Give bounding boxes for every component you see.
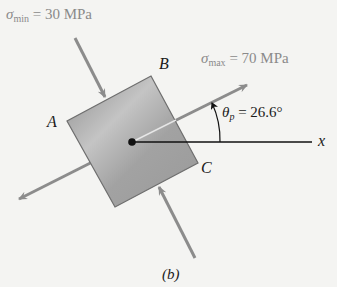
theta-p-label: θp = 26.6° [222, 104, 283, 122]
center-point [128, 138, 136, 146]
sigma-min-subscript: min [13, 13, 29, 24]
sigma-max-subscript: max [208, 57, 225, 68]
stress-element-diagram [0, 0, 337, 287]
theta-p-value: 26.6° [250, 104, 282, 120]
sigma-min-value: 30 MPa [45, 6, 92, 22]
x-axis-label: x [318, 132, 325, 150]
equals-sign: = [29, 6, 45, 22]
corner-label-c: C [201, 159, 212, 177]
figure-caption: (b) [162, 266, 180, 283]
theta-arc [212, 103, 220, 142]
equals-sign: = [226, 50, 242, 66]
corner-label-a: A [47, 113, 57, 131]
sigma-min-label: σmin = 30 MPa [6, 6, 92, 24]
equals-sign: = [234, 104, 250, 120]
sigma-max-label: σmax = 70 MPa [201, 50, 289, 68]
sigma-max-value: 70 MPa [242, 50, 289, 66]
corner-label-b: B [159, 55, 169, 73]
